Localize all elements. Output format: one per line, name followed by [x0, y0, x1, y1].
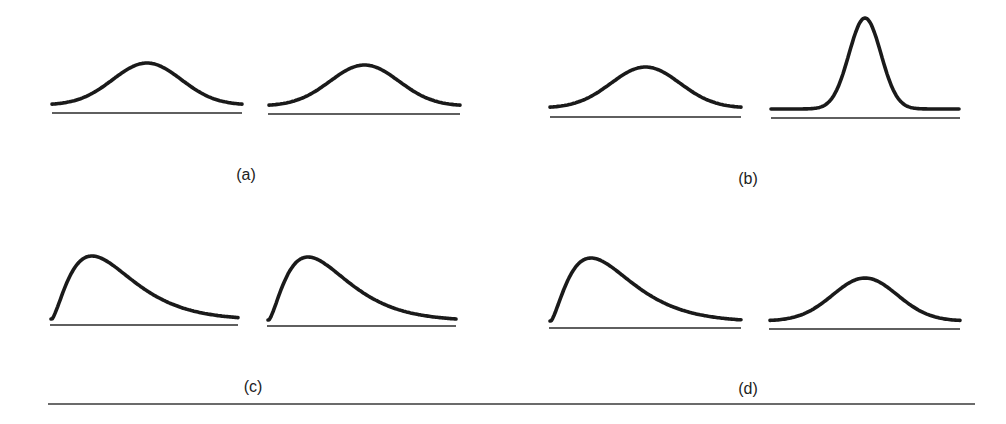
panel-b-right-curve	[771, 18, 960, 118]
distribution-figure	[0, 0, 1006, 424]
panel-a	[52, 63, 460, 114]
panel-d-right-curve	[769, 278, 960, 329]
panel-d-label: (d)	[738, 380, 758, 398]
panel-b-left-curve	[550, 67, 741, 117]
panel-c-left-curve	[50, 256, 238, 325]
panel-a-right-curve	[268, 65, 460, 114]
panel-a-left-curve	[52, 63, 242, 113]
panel-b	[550, 18, 960, 118]
panel-c-label: (c)	[244, 378, 263, 396]
panel-b-label: (b)	[738, 170, 758, 188]
panel-c	[50, 256, 456, 326]
panel-a-label: (a)	[236, 166, 256, 184]
panel-d-left-curve	[549, 258, 741, 328]
panel-d	[549, 258, 960, 329]
panel-c-right-curve	[267, 257, 456, 326]
